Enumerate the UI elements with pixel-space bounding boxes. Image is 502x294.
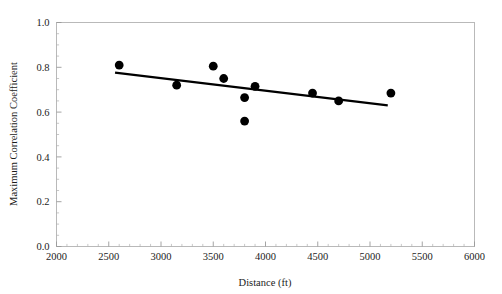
data-point	[308, 89, 317, 98]
x-tick-label: 3500	[203, 251, 224, 262]
data-point	[240, 117, 249, 126]
x-tick-label: 4500	[307, 251, 328, 262]
x-axis-title: Distance (ft)	[239, 277, 292, 289]
x-tick-label: 5500	[412, 251, 433, 262]
y-tick-label: 1.0	[36, 17, 49, 28]
x-tick-label: 3000	[151, 251, 172, 262]
x-tick-label: 5000	[360, 251, 381, 262]
y-tick-label: 0.6	[36, 107, 49, 118]
y-tick-label: 0.8	[36, 62, 49, 73]
chart-canvas: 200025003000350040004500500055006000 0.0…	[0, 0, 502, 294]
scatter-plot-figure: 200025003000350040004500500055006000 0.0…	[0, 0, 502, 294]
y-axis-title: Maximum Correlation Coefficient	[8, 62, 19, 206]
data-point	[251, 82, 260, 91]
data-point	[172, 81, 181, 90]
y-tick-label: 0.4	[36, 152, 50, 163]
data-point	[115, 61, 124, 70]
x-tick-label: 4000	[255, 251, 276, 262]
data-point	[219, 74, 228, 83]
data-point	[209, 62, 218, 71]
y-tick-label: 0.2	[36, 196, 49, 207]
data-point	[240, 93, 249, 102]
y-tick-label: 0.0	[36, 241, 49, 252]
data-point	[387, 89, 396, 98]
x-tick-label: 6000	[464, 251, 485, 262]
x-tick-label: 2000	[46, 251, 67, 262]
data-point	[334, 97, 343, 106]
x-tick-label: 2500	[98, 251, 119, 262]
